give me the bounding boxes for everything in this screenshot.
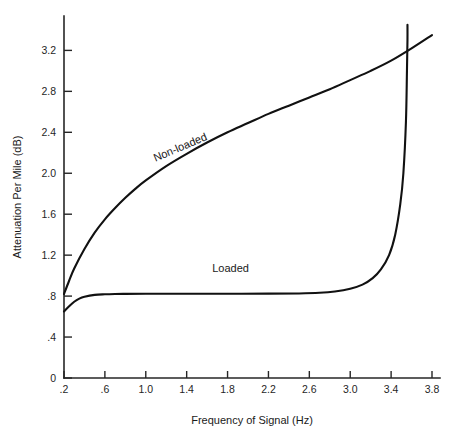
x-tick-label: 3.8 — [425, 383, 440, 395]
y-tick-label: .8 — [47, 290, 56, 302]
series-label-loaded: Loaded — [212, 262, 249, 274]
y-tick-label: 3.2 — [41, 44, 56, 56]
attenuation-chart-svg: 0.4.81.21.62.02.42.83.2 .2.61.01.41.82.2… — [0, 0, 463, 442]
x-tick-label: 1.4 — [179, 383, 194, 395]
x-tick-label: .2 — [60, 383, 69, 395]
y-axis-ticks: 0.4.81.21.62.02.42.83.2 — [41, 44, 72, 384]
x-axis-ticks: .2.61.01.41.82.22.63.03.43.8 — [60, 371, 440, 395]
y-tick-label: .4 — [47, 331, 56, 343]
x-tick-label: 3.0 — [343, 383, 358, 395]
axes-group — [64, 16, 440, 378]
x-tick-label: 2.6 — [302, 383, 317, 395]
x-tick-label: 1.8 — [220, 383, 235, 395]
curve-non-loaded — [64, 35, 432, 294]
series-labels: Non-loadedLoaded — [152, 130, 249, 273]
x-tick-label: 2.2 — [261, 383, 276, 395]
y-tick-label: 0 — [50, 372, 56, 384]
y-tick-label: 2.0 — [41, 167, 56, 179]
y-tick-label: 1.2 — [41, 249, 56, 261]
x-axis-title: Frequency of Signal (Hz) — [191, 414, 313, 426]
y-axis-title: Attenuation Per Mile (dB) — [11, 136, 23, 259]
x-tick-label: 1.0 — [138, 383, 153, 395]
x-tick-label: .6 — [101, 383, 110, 395]
y-tick-label: 2.4 — [41, 126, 56, 138]
chart-root: 0.4.81.21.62.02.42.83.2 .2.61.01.41.82.2… — [0, 0, 463, 442]
y-tick-label: 2.8 — [41, 85, 56, 97]
y-tick-label: 1.6 — [41, 208, 56, 220]
x-tick-label: 3.4 — [384, 383, 399, 395]
